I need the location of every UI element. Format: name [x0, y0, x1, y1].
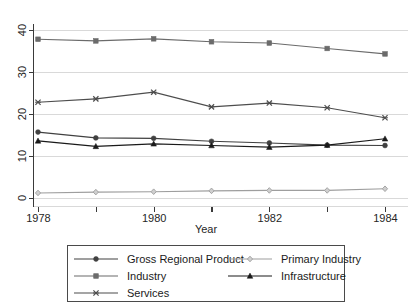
- data-point: [266, 100, 272, 105]
- legend-label: Infrastructure: [281, 270, 346, 282]
- y-axis-ticks: [29, 31, 34, 199]
- data-point: [209, 188, 214, 194]
- data-point: [267, 188, 272, 194]
- data-point: [151, 90, 157, 95]
- data-point: [151, 189, 156, 195]
- series-services: [35, 90, 388, 121]
- data-point: [325, 46, 330, 51]
- x-tick-label-1978: 1978: [26, 212, 50, 224]
- legend-marker-icon: [94, 257, 99, 262]
- gridlines: [33, 31, 408, 207]
- data-point: [382, 186, 387, 192]
- data-point: [93, 189, 98, 195]
- data-point: [151, 37, 156, 42]
- series-layer: [35, 37, 388, 196]
- data-point: [209, 104, 215, 109]
- data-point: [382, 115, 388, 120]
- y-tick-label-30: 30: [16, 66, 28, 78]
- legend-label: Services: [127, 287, 170, 299]
- data-point: [93, 136, 98, 141]
- data-point: [383, 52, 388, 57]
- data-point: [151, 136, 156, 141]
- y-axis-tick-labels: 010203040: [16, 24, 28, 201]
- data-point: [35, 190, 40, 196]
- line-chart: 010203040 1978198019821984 Year Gross Re…: [0, 0, 412, 308]
- data-point: [325, 188, 330, 194]
- legend-marker-icon: [94, 274, 99, 279]
- legend-marker-icon: [93, 290, 99, 295]
- chart-container: 010203040 1978198019821984 Year Gross Re…: [0, 0, 412, 308]
- data-point: [35, 100, 41, 105]
- y-tick-label-10: 10: [16, 150, 28, 162]
- legend-item-gross-regional-product[interactable]: Gross Regional Product: [74, 253, 244, 265]
- data-point: [383, 143, 388, 148]
- x-tick-label-1984: 1984: [373, 212, 397, 224]
- x-axis-title: Year: [195, 223, 218, 235]
- legend-label: Primary Industry: [281, 253, 362, 265]
- x-axis-ticks: [39, 207, 386, 212]
- legend-label: Gross Regional Product: [127, 253, 244, 265]
- legend-item-services[interactable]: Services: [74, 287, 170, 299]
- series-industry: [36, 37, 388, 57]
- series-primary-industry: [35, 186, 387, 196]
- data-point: [209, 39, 214, 44]
- data-point: [36, 130, 41, 135]
- legend-item-primary-industry[interactable]: Primary Industry: [228, 253, 362, 265]
- y-tick-label-0: 0: [16, 195, 28, 201]
- legend-item-infrastructure[interactable]: Infrastructure: [228, 270, 346, 282]
- data-point: [93, 96, 99, 101]
- x-tick-label-1980: 1980: [142, 212, 166, 224]
- data-point: [267, 41, 272, 46]
- series-line: [38, 92, 385, 118]
- data-point: [36, 37, 41, 42]
- legend-label: Industry: [127, 270, 167, 282]
- y-tick-label-20: 20: [16, 108, 28, 120]
- x-tick-label-1982: 1982: [258, 212, 282, 224]
- data-point: [324, 105, 330, 110]
- legend-item-industry[interactable]: Industry: [74, 270, 167, 282]
- legend: Gross Regional ProductIndustryServicesPr…: [74, 253, 362, 299]
- data-point: [94, 39, 99, 44]
- y-tick-label-40: 40: [16, 24, 28, 36]
- legend-marker-icon: [247, 256, 252, 262]
- series-infrastructure: [35, 136, 388, 150]
